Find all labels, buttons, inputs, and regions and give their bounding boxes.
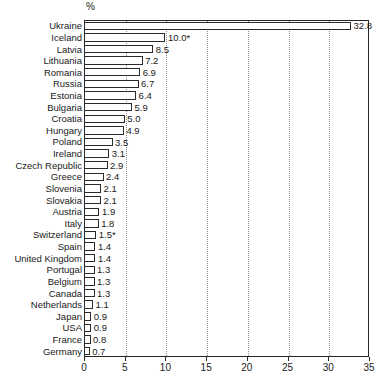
category-label: Belgium bbox=[0, 276, 82, 287]
category-label: France bbox=[0, 334, 82, 345]
x-tick bbox=[247, 357, 248, 361]
value-label: 7.2 bbox=[145, 55, 158, 66]
category-label: Slovenia bbox=[0, 183, 82, 194]
bar bbox=[84, 91, 136, 99]
x-tick-label: 0 bbox=[81, 362, 87, 374]
bar bbox=[84, 277, 95, 285]
x-tick bbox=[165, 357, 166, 361]
bar-row: Germany0.7 bbox=[0, 345, 384, 357]
value-label: 2.9 bbox=[110, 160, 123, 171]
x-tick-label: 35 bbox=[363, 362, 374, 374]
bar-row: Switzerland1.5* bbox=[0, 229, 384, 241]
category-label: USA bbox=[0, 322, 82, 333]
bar-row: Ukraine32.8 bbox=[0, 20, 384, 32]
value-label: 1.9 bbox=[102, 206, 115, 217]
value-label: 0.9 bbox=[94, 322, 107, 333]
bar-row: Canada1.3 bbox=[0, 287, 384, 299]
value-label: 6.4 bbox=[139, 90, 152, 101]
x-tick bbox=[206, 357, 207, 361]
category-label: Austria bbox=[0, 206, 82, 217]
category-label: Japan bbox=[0, 311, 82, 322]
x-tick-label: 15 bbox=[201, 362, 212, 374]
x-tick bbox=[125, 357, 126, 361]
value-label: 1.4 bbox=[98, 253, 111, 264]
value-label: 3.1 bbox=[112, 148, 125, 159]
value-label: 0.8 bbox=[93, 334, 106, 345]
category-label: Russia bbox=[0, 78, 82, 89]
bar-row: Portugal1.3 bbox=[0, 264, 384, 276]
bar bbox=[84, 138, 113, 146]
category-label: Portugal bbox=[0, 264, 82, 275]
bar-row: Slovakia2.1 bbox=[0, 194, 384, 206]
bar bbox=[84, 149, 109, 157]
value-label: 32.8 bbox=[354, 20, 373, 31]
value-label: 1.3 bbox=[97, 288, 110, 299]
bar-row: Japan0.9 bbox=[0, 311, 384, 323]
bar bbox=[84, 68, 140, 76]
value-label: 6.7 bbox=[141, 78, 154, 89]
bar bbox=[84, 184, 101, 192]
bar-chart: % Ukraine32.8Iceland10.0*Latvia8.5Lithua… bbox=[0, 0, 384, 384]
bar bbox=[84, 56, 143, 64]
bar bbox=[84, 161, 108, 169]
bar bbox=[84, 115, 125, 123]
value-label: 3.5 bbox=[115, 137, 128, 148]
value-label: 1.4 bbox=[98, 241, 111, 252]
bar-row: Spain1.4 bbox=[0, 241, 384, 253]
bar bbox=[84, 347, 90, 355]
bar bbox=[84, 254, 95, 262]
category-label: Slovakia bbox=[0, 195, 82, 206]
value-label: 0.9 bbox=[94, 311, 107, 322]
bar-row: Latvia8.5 bbox=[0, 43, 384, 55]
x-tick bbox=[328, 357, 329, 361]
x-tick bbox=[369, 357, 370, 361]
x-tick-label: 10 bbox=[160, 362, 171, 374]
bar-row: France0.8 bbox=[0, 334, 384, 346]
bar-row: Lithuania7.2 bbox=[0, 55, 384, 67]
value-label: 1.8 bbox=[101, 218, 114, 229]
bar-row: Romania6.9 bbox=[0, 66, 384, 78]
bar-row: Estonia6.4 bbox=[0, 90, 384, 102]
bar bbox=[84, 312, 91, 320]
bar-row: United Kingdom1.4 bbox=[0, 252, 384, 264]
bar-row: Greece2.4 bbox=[0, 171, 384, 183]
value-label: 2.4 bbox=[106, 171, 119, 182]
bar-row: Slovenia2.1 bbox=[0, 183, 384, 195]
bar-row: Netherlands1.1 bbox=[0, 299, 384, 311]
bar-row: Belgium1.3 bbox=[0, 276, 384, 288]
category-label: Iceland bbox=[0, 32, 82, 43]
value-label: 1.1 bbox=[95, 299, 108, 310]
category-label: Greece bbox=[0, 171, 82, 182]
value-label: 4.9 bbox=[126, 125, 139, 136]
bar bbox=[84, 324, 91, 332]
category-label: United Kingdom bbox=[0, 253, 82, 264]
bar bbox=[84, 242, 95, 250]
x-tick bbox=[288, 357, 289, 361]
value-label: 1.3 bbox=[97, 264, 110, 275]
x-tick bbox=[84, 357, 85, 361]
value-label: 1.3 bbox=[97, 276, 110, 287]
bar bbox=[84, 266, 95, 274]
bar bbox=[84, 208, 99, 216]
bar-row: Ireland3.1 bbox=[0, 148, 384, 160]
bar bbox=[84, 22, 351, 30]
category-label: Switzerland bbox=[0, 229, 82, 240]
value-label: 8.5 bbox=[156, 44, 169, 55]
bar bbox=[84, 335, 91, 343]
value-label: 5.0 bbox=[127, 113, 140, 124]
bar-row: Austria1.9 bbox=[0, 206, 384, 218]
category-label: Estonia bbox=[0, 90, 82, 101]
bar bbox=[84, 219, 99, 227]
bar bbox=[84, 231, 96, 239]
bar-row: Russia6.7 bbox=[0, 78, 384, 90]
bar-row: Iceland10.0* bbox=[0, 32, 384, 44]
bar bbox=[84, 126, 124, 134]
x-tick-label: 30 bbox=[323, 362, 334, 374]
bar-row: Czech Republic2.9 bbox=[0, 159, 384, 171]
category-label: Ukraine bbox=[0, 20, 82, 31]
value-label: 5.9 bbox=[135, 102, 148, 113]
value-label: 6.9 bbox=[143, 67, 156, 78]
category-label: Czech Republic bbox=[0, 160, 82, 171]
category-label: Italy bbox=[0, 218, 82, 229]
bar-row: Croatia5.0 bbox=[0, 113, 384, 125]
